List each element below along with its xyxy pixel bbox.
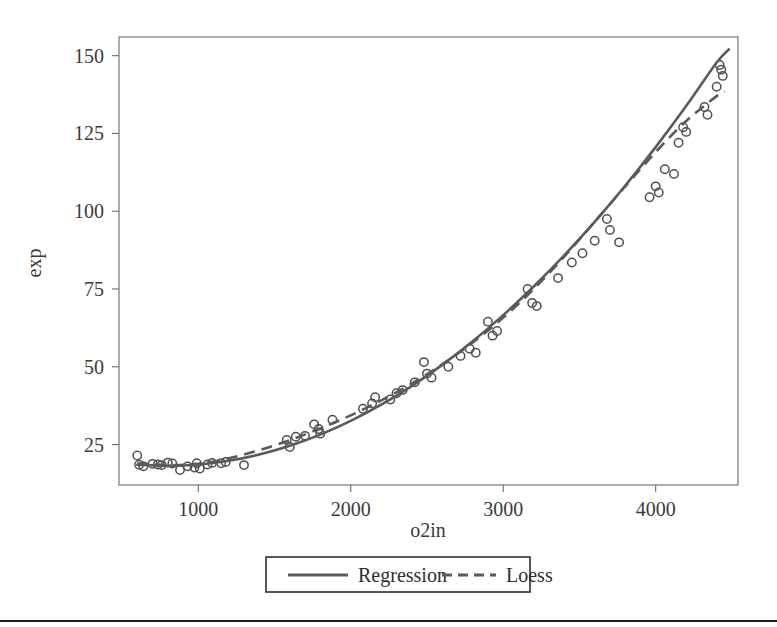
data-point xyxy=(674,139,682,147)
legend-label-regression: Regression xyxy=(358,564,447,587)
data-point xyxy=(472,349,480,357)
x-axis-title: o2in xyxy=(410,519,446,541)
data-point xyxy=(578,249,586,257)
data-point xyxy=(615,238,623,246)
regression-curve xyxy=(137,49,729,465)
y-tick-label: 75 xyxy=(84,278,104,300)
loess-curve xyxy=(137,91,724,465)
data-point xyxy=(645,193,653,201)
data-point xyxy=(590,237,598,245)
x-tick-label: 3000 xyxy=(483,498,523,520)
y-axis-tick-labels: 255075100125150 xyxy=(74,45,104,456)
x-axis-tick-marks xyxy=(198,485,655,492)
data-point xyxy=(661,165,669,173)
scatter-plot-chart: 1000200030004000 255075100125150 o2in ex… xyxy=(0,0,777,627)
data-point xyxy=(240,461,248,469)
legend: Regression Loess xyxy=(266,557,553,592)
y-tick-label: 100 xyxy=(74,200,104,222)
y-tick-label: 25 xyxy=(84,434,104,456)
y-tick-label: 125 xyxy=(74,122,104,144)
figure-container: 1000200030004000 255075100125150 o2in ex… xyxy=(0,0,777,627)
plot-frame xyxy=(119,37,738,485)
data-point xyxy=(703,111,711,119)
data-point xyxy=(568,258,576,266)
data-point-group xyxy=(133,61,727,474)
data-point xyxy=(133,451,141,459)
data-point xyxy=(420,358,428,366)
data-point xyxy=(603,215,611,223)
x-tick-label: 4000 xyxy=(636,498,676,520)
x-tick-label: 2000 xyxy=(331,498,371,520)
x-axis-tick-labels: 1000200030004000 xyxy=(178,498,675,520)
data-point xyxy=(670,170,678,178)
y-tick-label: 150 xyxy=(74,45,104,67)
data-point xyxy=(712,83,720,91)
legend-label-loess: Loess xyxy=(506,564,553,586)
y-axis-tick-marks xyxy=(112,56,119,445)
x-tick-label: 1000 xyxy=(178,498,218,520)
y-axis-title: exp xyxy=(23,249,46,278)
y-tick-label: 50 xyxy=(84,356,104,378)
data-point xyxy=(554,274,562,282)
data-point xyxy=(606,226,614,234)
